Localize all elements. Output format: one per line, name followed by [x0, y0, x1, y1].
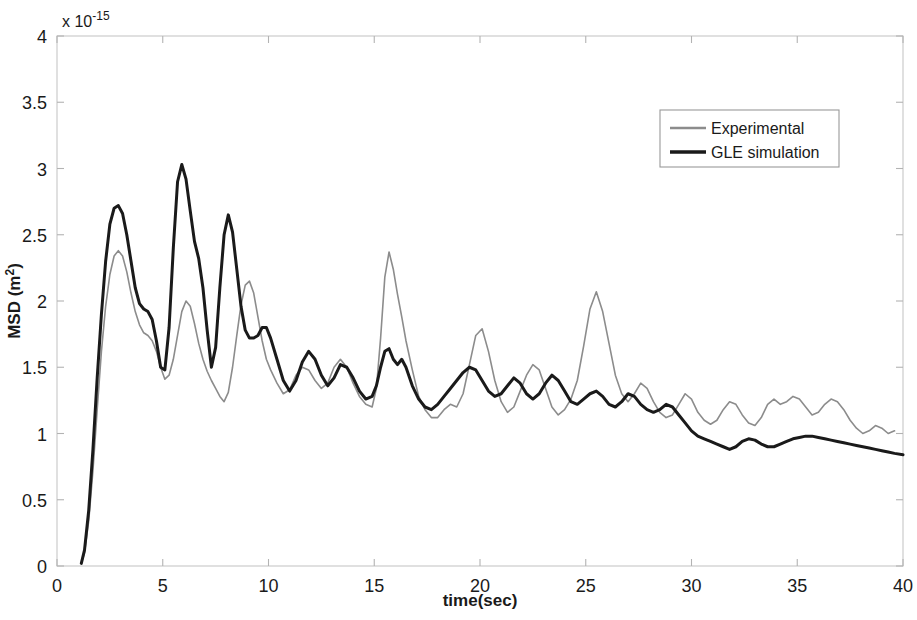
x-tick-label: 10: [258, 576, 278, 596]
x-tick-label: 30: [681, 576, 701, 596]
x-tick-label: 5: [158, 576, 168, 596]
legend-label-experimental: Experimental: [711, 120, 804, 137]
y-tick-label: 3.5: [22, 93, 47, 113]
y-tick-label: 2: [37, 292, 47, 312]
x-tick-label: 25: [576, 576, 596, 596]
y-tick-label: 4: [37, 27, 47, 47]
chart-figure: 0510152025303540 00.511.522.533.54 x 10-…: [0, 0, 917, 620]
legend-label-gle-simulation: GLE simulation: [711, 144, 820, 161]
x-tick-label: 15: [364, 576, 384, 596]
x-axis-label: time(sec): [443, 591, 518, 610]
x-tick-label: 35: [787, 576, 807, 596]
x-tick-label: 40: [893, 576, 913, 596]
y-tick-label: 0: [37, 557, 47, 577]
y-tick-label: 2.5: [22, 226, 47, 246]
y-tick-label: 1.5: [22, 358, 47, 378]
y-tick-label: 3: [37, 160, 47, 180]
y-axis-tick-labels: 00.511.522.533.54: [22, 27, 47, 577]
y-tick-label: 1: [37, 425, 47, 445]
msd-line-chart: 0510152025303540 00.511.522.533.54 x 10-…: [0, 0, 917, 620]
y-tick-label: 0.5: [22, 491, 47, 511]
y-axis-multiplier: x 10-15: [62, 9, 110, 30]
y-axis-label: MSD (m2): [3, 263, 24, 339]
x-tick-label: 0: [52, 576, 62, 596]
chart-legend: Experimental GLE simulation: [660, 110, 839, 167]
